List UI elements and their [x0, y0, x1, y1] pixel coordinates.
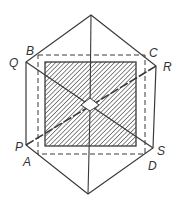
diagram-canvas: B Q C R P A S D	[0, 0, 181, 207]
label-q: Q	[9, 56, 18, 70]
label-c: C	[149, 46, 158, 60]
label-r: R	[163, 60, 172, 74]
label-s: S	[157, 144, 165, 158]
label-p: P	[15, 140, 23, 154]
label-a: A	[22, 155, 31, 169]
label-b: B	[26, 44, 34, 58]
label-d: D	[148, 159, 157, 173]
